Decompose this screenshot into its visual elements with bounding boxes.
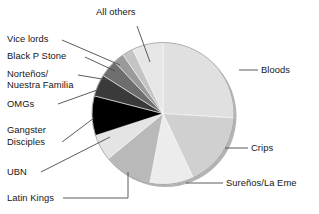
pie-slice-bloods[interactable]: [163, 43, 234, 118]
label-nortenos-line2: Nuestra Familia: [7, 79, 73, 90]
label-latin-kings: Latin Kings: [7, 192, 54, 203]
label-all-others: All others: [96, 6, 136, 17]
label-vice-lords: Vice lords: [7, 33, 49, 44]
pie-chart: All others Vice lords Black P Stone Nort…: [0, 0, 319, 214]
leader-line-ubn: [41, 137, 110, 172]
label-bloods: Bloods: [261, 64, 290, 75]
label-black-p-stone: Black P Stone: [7, 50, 66, 61]
label-nortenos-line1: Norteños/: [7, 68, 48, 79]
label-ubn: UBN: [7, 166, 27, 177]
label-gangster-disciples-line1: Gangster: [7, 124, 46, 135]
label-surenos: Sureños/La Eme: [226, 177, 297, 188]
label-crips: Crips: [251, 142, 273, 153]
label-gangster-disciples-line2: Disciples: [7, 136, 45, 147]
pie-slices-group: [92, 43, 237, 188]
leader-line-black-p-stone: [85, 57, 115, 71]
leader-line-latin-kings: [63, 172, 128, 198]
leader-line-vice-lords: [62, 40, 120, 65]
label-omgs: OMGs: [7, 98, 34, 109]
leader-line-gangster-disciples: [62, 118, 94, 142]
